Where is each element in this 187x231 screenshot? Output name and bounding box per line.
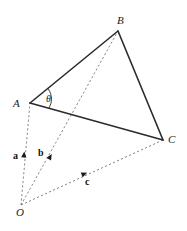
edge-AB-solid <box>30 31 118 103</box>
angle-label-theta: θ <box>46 93 51 104</box>
vector-label-a: a <box>13 150 18 161</box>
vertex-label-O: O <box>16 206 24 218</box>
vector-label-c: c <box>85 176 90 187</box>
edge-AC-solid <box>30 103 163 140</box>
edge-OB-dashed <box>21 31 118 205</box>
edge-OA-dashed <box>21 103 30 205</box>
vector-b-arrowhead <box>46 153 54 161</box>
figure-canvas: O A B C θ a b c <box>0 0 187 231</box>
vertex-label-C: C <box>168 133 176 145</box>
vertex-label-A: A <box>12 97 20 109</box>
vertex-label-B: B <box>117 14 124 26</box>
vector-label-b: b <box>38 147 44 158</box>
edge-BC-solid <box>118 31 163 140</box>
vector-triangle-diagram: O A B C θ a b c <box>0 0 187 231</box>
